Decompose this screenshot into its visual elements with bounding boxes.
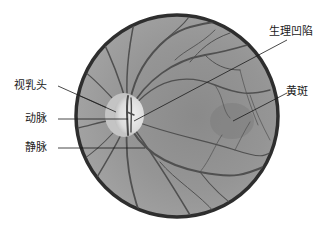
label-macula: 黄斑 — [286, 86, 308, 98]
label-optic-papilla: 视乳头 — [14, 80, 47, 92]
optic-disc — [114, 96, 144, 134]
label-artery: 动脉 — [25, 113, 47, 125]
label-vein: 静脉 — [25, 142, 47, 154]
macula-region — [210, 103, 254, 139]
label-physiologic-cup: 生理凹陷 — [269, 26, 313, 38]
